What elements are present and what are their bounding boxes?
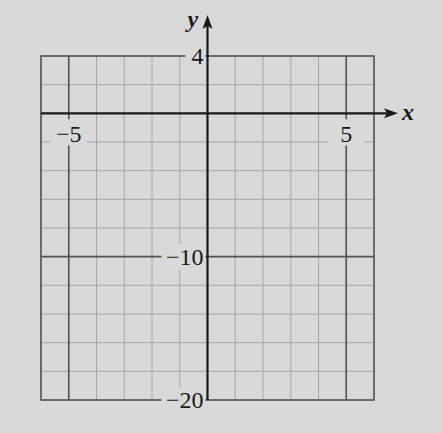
coordinate-grid-chart: −554−10−20 x y <box>0 0 441 433</box>
y-tick-label: −10 <box>166 244 204 270</box>
x-tick-label: −5 <box>56 121 82 147</box>
y-axis-label: y <box>185 6 199 32</box>
y-tick-label: −20 <box>166 387 204 413</box>
y-tick-label: 4 <box>192 43 204 69</box>
x-axis-label: x <box>401 99 414 125</box>
x-tick-label: 5 <box>340 121 352 147</box>
